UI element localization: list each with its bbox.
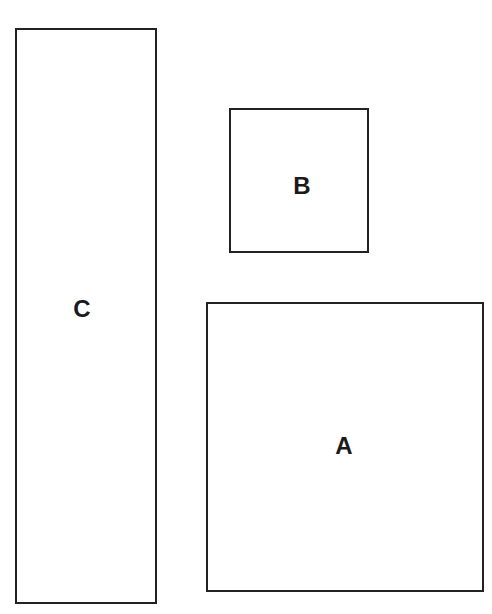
label-c: C xyxy=(73,297,90,321)
label-b: B xyxy=(293,174,310,198)
label-a: A xyxy=(335,434,352,458)
